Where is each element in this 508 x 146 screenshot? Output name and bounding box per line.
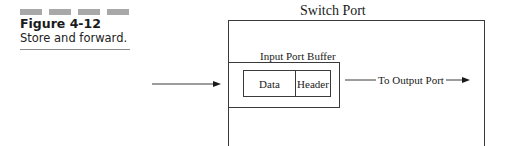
to-output-port-label: To Output Port (376, 74, 446, 86)
incoming-arrow-icon (152, 81, 221, 87)
arrows-layer (0, 0, 508, 146)
